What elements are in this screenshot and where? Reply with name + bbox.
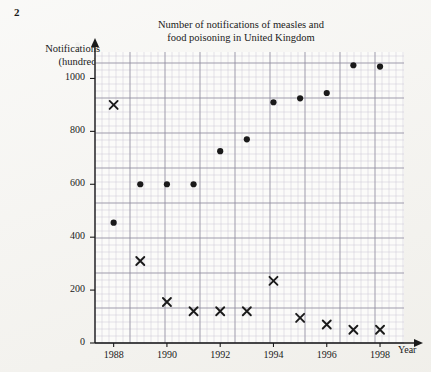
x-tick-label-1992: 1992 bbox=[200, 349, 240, 360]
y-tick-label-600: 600 bbox=[45, 177, 85, 188]
data-point-dot-series-1988 bbox=[111, 220, 117, 226]
x-tick-label-1996: 1996 bbox=[307, 349, 347, 360]
x-axis-arrow bbox=[414, 339, 423, 347]
y-tick-label-0: 0 bbox=[45, 336, 85, 347]
data-point-dot-series-1990 bbox=[164, 181, 170, 187]
y-tick-label-400: 400 bbox=[45, 230, 85, 241]
data-point-dot-series-1994 bbox=[270, 99, 276, 105]
data-point-dot-series-1991 bbox=[190, 181, 196, 187]
x-tick-label-1990: 1990 bbox=[147, 349, 187, 360]
plot-background bbox=[95, 52, 404, 343]
y-axis-arrow bbox=[91, 38, 99, 47]
scatter-plot: 0200400600800100019881990199219941996199… bbox=[0, 0, 431, 372]
data-point-dot-series-1997 bbox=[350, 62, 356, 68]
y-tick-label-800: 800 bbox=[45, 124, 85, 135]
data-point-dot-series-1992 bbox=[217, 148, 223, 154]
x-tick-label-1994: 1994 bbox=[253, 349, 293, 360]
data-point-dot-series-1993 bbox=[244, 136, 250, 142]
x-tick-label-1998: 1998 bbox=[360, 349, 400, 360]
x-tick-label-1988: 1988 bbox=[94, 349, 134, 360]
data-point-dot-series-1989 bbox=[137, 181, 143, 187]
y-tick-label-200: 200 bbox=[45, 283, 85, 294]
y-tick-label-1000: 1000 bbox=[45, 71, 85, 82]
data-point-dot-series-1996 bbox=[324, 90, 330, 96]
data-point-dot-series-1995 bbox=[297, 95, 303, 101]
data-point-dot-series-1998 bbox=[377, 63, 383, 69]
